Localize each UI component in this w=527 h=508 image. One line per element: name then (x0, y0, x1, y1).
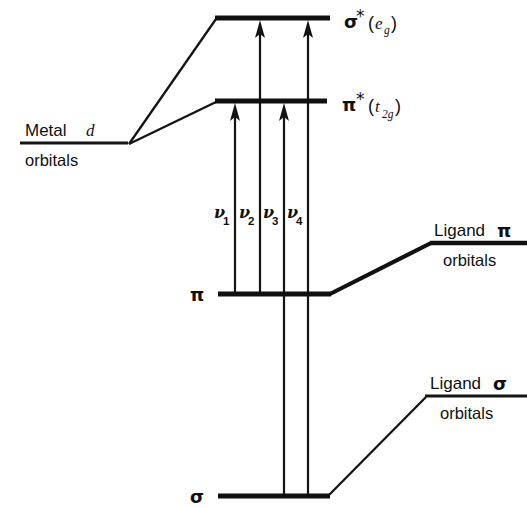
fragment-metal-d: Metal d orbitals (20, 121, 128, 169)
sigma-star-subscript: g (384, 24, 390, 37)
label-nu1: ν 1 (214, 203, 230, 227)
pi-star-asterisk: * (356, 89, 365, 109)
pi-bonding-symbol: π (190, 284, 204, 305)
sigma-star-asterisk: * (356, 6, 365, 26)
sigma-star-term-letter: e (375, 14, 383, 33)
metal-d-label-word: Metal (25, 121, 67, 140)
pi-star-paren-open: ( (368, 96, 374, 116)
ligand-pi-label-word: Ligand (434, 221, 485, 240)
ligand-pi-label-symbol: π (497, 220, 511, 241)
pi-star-paren-close: ) (395, 96, 401, 116)
pi-star-subscript: 2g (382, 108, 394, 121)
connector-sigma-to-ligand-sigma (329, 397, 426, 495)
nu3-label-subscript: 3 (272, 215, 278, 227)
transition-nu1 (230, 103, 240, 294)
label-nu4: ν 4 (287, 203, 303, 227)
pi-star-term-letter: t (375, 97, 381, 116)
label-pi-star: π * ( t 2g ) (342, 89, 401, 121)
connector-metal-d-to-pi-star (129, 102, 216, 144)
ligand-pi-label-orbitals: orbitals (443, 251, 496, 269)
nu2-label-subscript: 2 (248, 215, 254, 227)
nu4-label-subscript: 4 (296, 215, 303, 227)
connector-metal-d-to-sigma-star (129, 19, 216, 144)
mo-diagram-canvas: Metal d orbitals Ligand π orbitals Ligan… (0, 0, 527, 508)
fragment-ligand-sigma: Ligand σ orbitals (425, 373, 527, 422)
transition-nu2 (255, 20, 265, 294)
metal-d-label-orbitals: orbitals (25, 151, 78, 169)
sigma-star-paren-close: ) (391, 13, 397, 33)
ligand-sigma-label-word: Ligand (430, 374, 481, 393)
sigma-bonding-symbol: σ (190, 486, 204, 507)
transition-nu4 (303, 20, 313, 496)
fragment-ligand-pi: Ligand π orbitals (430, 220, 527, 269)
nu1-label-subscript: 1 (223, 215, 230, 227)
sigma-star-paren-open: ( (368, 13, 374, 33)
label-sigma-star: σ * ( e g ) (344, 6, 397, 37)
connector-pi-to-ligand-pi (330, 243, 431, 294)
label-nu3: ν 3 (263, 203, 278, 227)
metal-d-label-orbital-letter: d (86, 121, 95, 140)
ligand-sigma-label-orbitals: orbitals (440, 404, 493, 422)
label-nu2: ν 2 (239, 203, 254, 227)
ligand-sigma-label-symbol: σ (493, 373, 507, 394)
mo-energy-diagram: Metal d orbitals Ligand π orbitals Ligan… (0, 0, 527, 508)
pi-star-symbol: π (342, 94, 356, 115)
transition-nu3 (279, 103, 289, 496)
